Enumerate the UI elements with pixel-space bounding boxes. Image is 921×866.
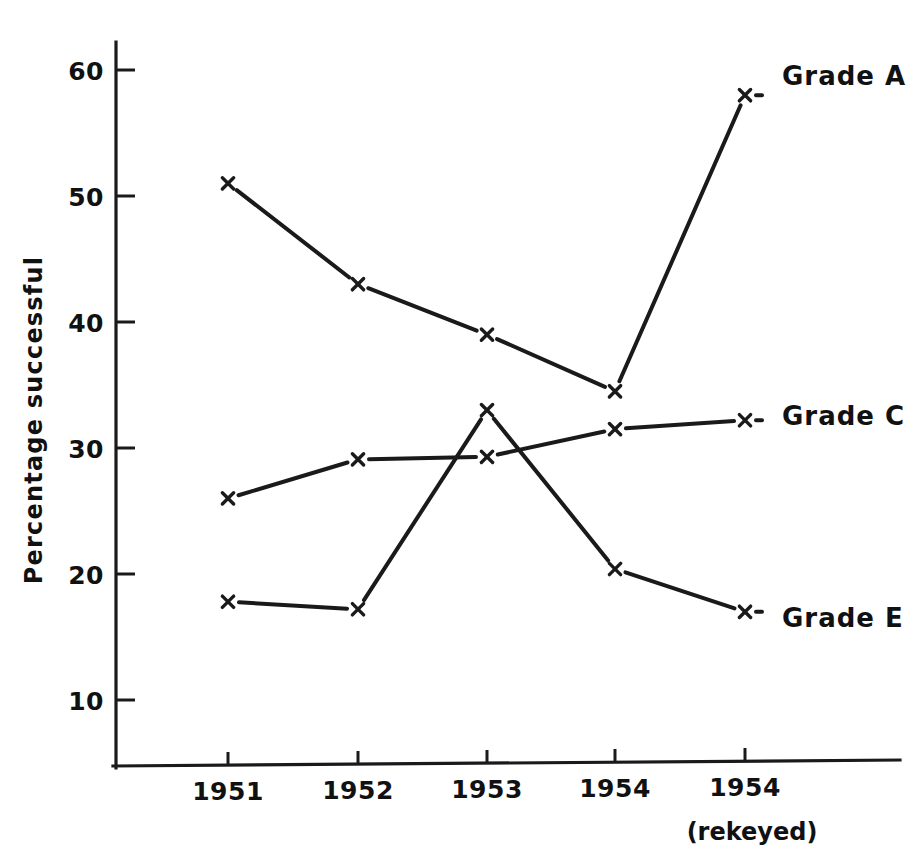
series-label-grade-e: Grade E: [782, 603, 904, 633]
series-label-grade-a: Grade A: [782, 61, 906, 91]
data-point-marker: [481, 451, 492, 462]
x-tick-label-1952: 1952: [322, 776, 394, 805]
data-point-marker: [352, 279, 363, 290]
data-point-marker: [739, 415, 750, 426]
series-segment: [364, 419, 481, 600]
data-point-marker: [481, 329, 492, 340]
data-point-marker: [222, 178, 233, 189]
data-point-marker: [352, 454, 363, 465]
data-point-marker: [352, 604, 363, 615]
series-segment: [368, 288, 477, 330]
y-tick-label-10: 10: [68, 687, 104, 716]
series-segment: [497, 339, 605, 387]
line-chart: 60 50 40 30 20 10 Percentage successful …: [0, 0, 921, 866]
data-point-marker: [609, 423, 620, 434]
y-tick-label-40: 40: [68, 309, 104, 338]
series-label-grade-c: Grade C: [782, 401, 905, 431]
x-axis-line: [113, 760, 900, 766]
series-segment: [237, 190, 350, 277]
data-point-marker: [739, 90, 750, 101]
series-segment: [494, 419, 608, 561]
x-tick-label-1953: 1953: [451, 775, 523, 804]
series-segment: [239, 463, 348, 496]
y-tick-label-20: 20: [68, 561, 104, 590]
data-point-marker: [222, 596, 233, 607]
series-segment: [369, 457, 476, 459]
series-segment: [619, 105, 740, 381]
series-layer: [222, 90, 762, 618]
series-segment: [625, 572, 734, 608]
data-point-marker: [609, 563, 620, 574]
data-point-marker: [609, 386, 620, 397]
y-tick-label-30: 30: [68, 435, 104, 464]
x-tick-label-1954: 1954: [579, 774, 651, 803]
x-tick-label-1951: 1951: [192, 777, 264, 806]
y-tick-label-50: 50: [68, 183, 104, 212]
series-segment: [239, 602, 347, 608]
y-tick-label-60: 60: [68, 57, 104, 86]
data-point-marker: [481, 405, 492, 416]
x-tick-label-1954-rekeyed: 1954: [709, 773, 781, 802]
data-point-marker: [222, 493, 233, 504]
series-segment: [626, 421, 734, 428]
y-axis-title: Percentage successful: [20, 256, 48, 584]
data-point-marker: [739, 606, 750, 617]
chart-container: 60 50 40 30 20 10 Percentage successful …: [0, 0, 921, 866]
x-tick-sublabel-rekeyed: (rekeyed): [687, 818, 818, 846]
